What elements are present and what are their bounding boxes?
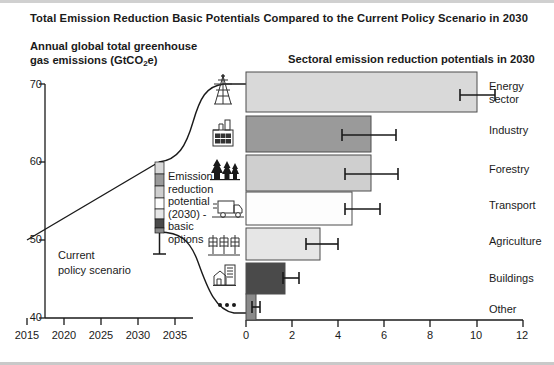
building-icon [213, 265, 236, 286]
bar-forestry[interactable] [246, 155, 371, 191]
left-axis-group [27, 84, 193, 325]
upper-connector-curve [159, 84, 246, 162]
current-policy-scenario-line [27, 162, 159, 240]
stack-seg-agriculture [155, 209, 164, 219]
bar-energy[interactable] [246, 72, 477, 112]
stack-error-bar [153, 233, 166, 254]
stack-seg-forestry [155, 186, 164, 198]
bars-group [246, 72, 477, 320]
trees-icon [210, 159, 240, 180]
bar-axis-group [246, 320, 523, 327]
chart-page: Total Emission Reduction Basic Potential… [0, 0, 554, 365]
stacked-potential-marker [153, 162, 166, 254]
stack-seg-energy [155, 162, 164, 174]
bar-industry[interactable] [246, 116, 371, 152]
stack-seg-buildings [155, 219, 164, 228]
bar-transport[interactable] [246, 192, 352, 225]
chart-canvas [0, 0, 554, 365]
power-pylon-icon [214, 75, 232, 104]
stack-seg-industry [155, 174, 164, 186]
lower-connector-curve [159, 232, 246, 313]
crops-icon [208, 235, 240, 255]
stack-seg-other [155, 228, 164, 233]
truck-icon [212, 201, 244, 217]
bar-buildings[interactable] [246, 263, 285, 294]
stack-seg-transport [155, 198, 164, 209]
ellipsis-icon [218, 303, 236, 307]
factory-icon [213, 120, 233, 146]
